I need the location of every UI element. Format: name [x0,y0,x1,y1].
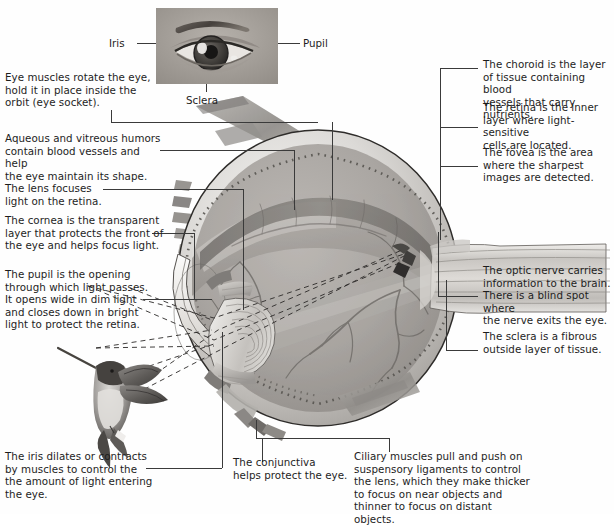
caption-humors: Aqueous and vitreous humors contain bloo… [5,132,165,182]
caption-iris: The iris dilates or contracts by muscles… [5,450,157,500]
photo-label-pupil: Pupil [303,37,328,50]
caption-pupil: The pupil is the opening through which l… [5,268,157,331]
caption-retina: The retina is the inner layer where ligh… [483,101,614,151]
caption-cornea: The cornea is the transparent layer that… [5,214,165,252]
eye-photograph [156,8,278,84]
photo-label-sclera: Sclera [186,94,218,107]
photo-label-iris: Iris [109,37,125,50]
caption-optic-nerve: The optic nerve carries information to t… [483,264,614,327]
caption-ciliary-muscles: Ciliary muscles pull and push on suspens… [354,450,534,526]
caption-eye-muscles: Eye muscles rotate the eye, hold it in p… [5,71,157,109]
caption-lens: The lens focuses light on the retina. [5,182,155,207]
caption-conjunctiva: The conjunctiva helps protect the eye. [233,456,349,481]
caption-sclera: The sclera is a fibrous outside layer of… [483,330,614,355]
caption-fovea: The fovea is the area where the sharpest… [483,146,614,184]
